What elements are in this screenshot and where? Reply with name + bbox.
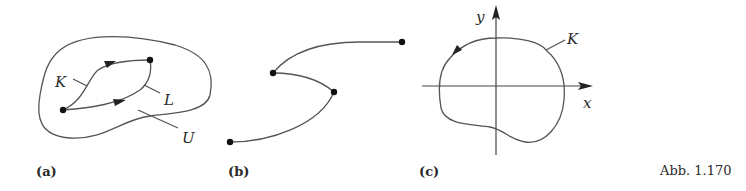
label-u: U <box>182 129 196 147</box>
panel-c: y x K (c) <box>419 5 593 179</box>
closed-curve-k <box>439 38 564 142</box>
curve-orientation-arrow-icon <box>452 45 462 55</box>
leader-u <box>138 110 178 128</box>
leader-l <box>144 85 160 93</box>
figure-caption: Abb. 1.170 <box>659 163 732 178</box>
point-2 <box>331 89 337 95</box>
arrow-l-icon <box>113 99 126 106</box>
path-segment-3 <box>273 42 402 73</box>
panel-label-c: (c) <box>419 164 439 179</box>
panel-label-b: (b) <box>228 164 249 179</box>
arrow-k-icon <box>104 61 116 68</box>
label-y: y <box>475 8 485 26</box>
curve-k <box>63 60 150 110</box>
figure-canvas: K L U (a) (b) y x K (c) Abb. 1.170 <box>0 0 746 191</box>
panel-a: K L U (a) <box>36 37 211 179</box>
label-k: K <box>54 73 67 91</box>
point-1 <box>227 139 233 145</box>
path-segment-2 <box>273 73 334 92</box>
leader-k <box>73 79 87 86</box>
point-4 <box>399 39 405 45</box>
path-segment-1 <box>230 92 334 142</box>
label-l: L <box>163 91 174 109</box>
panel-label-a: (a) <box>36 164 57 179</box>
label-k-c: K <box>566 30 579 48</box>
start-point <box>60 107 66 113</box>
leader-k-c <box>546 40 565 50</box>
label-x: x <box>583 94 592 112</box>
panel-b: (b) <box>227 39 405 179</box>
point-3 <box>270 70 276 76</box>
end-point <box>147 57 153 63</box>
